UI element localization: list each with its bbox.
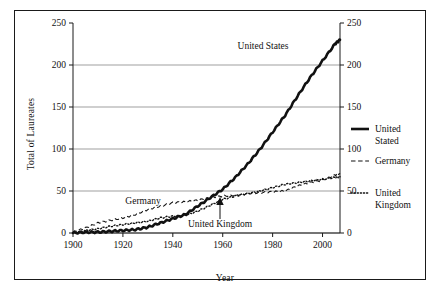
y-tick-label-left: 50 <box>57 186 67 196</box>
x-tick-label: 2000 <box>313 240 332 250</box>
y-tick-label-left: 250 <box>52 18 67 28</box>
legend-label-0: United <box>375 124 401 134</box>
gridlines <box>73 65 340 233</box>
x-tick-label: 1900 <box>64 240 83 250</box>
y-tick-label-left: 150 <box>52 102 67 112</box>
annotation-united-kingdom: United Kingdom <box>188 219 253 229</box>
chart-plot: 250200150100500 250200150100500 19001920… <box>15 11 425 279</box>
annotation-united-states: United States <box>238 41 289 51</box>
y-tick-label-left: 0 <box>61 228 66 238</box>
legend: UnitedStatedGermanyUnitedKingdom <box>351 124 412 209</box>
y-tick-label-left: 100 <box>52 144 67 154</box>
x-tick-label: 1980 <box>263 240 282 250</box>
x-tick-label: 1940 <box>163 240 182 250</box>
y-axis-left-ticks: 250200150100500 <box>52 18 73 238</box>
annotation-germany: Germany <box>125 196 161 206</box>
y-tick-label-right: 0 <box>347 228 352 238</box>
legend-label-0-line2: Stated <box>375 136 399 146</box>
y-tick-label-right: 150 <box>347 102 362 112</box>
y-tick-label-left: 200 <box>52 60 67 70</box>
legend-label-1: Germany <box>375 156 411 166</box>
series-line-united-states <box>73 40 340 234</box>
legend-label-2-line2: Kingdom <box>375 200 412 210</box>
x-tick-label: 1920 <box>113 240 132 250</box>
figure-container: Total of Laureates Year 250200150100500 … <box>0 0 440 294</box>
y-tick-label-right: 50 <box>347 186 357 196</box>
chart-frame: Total of Laureates Year 250200150100500 … <box>14 10 426 280</box>
x-tick-label: 1960 <box>213 240 232 250</box>
y-tick-label-right: 200 <box>347 60 362 70</box>
legend-label-2: United <box>375 188 401 198</box>
y-tick-label-right: 100 <box>347 144 362 154</box>
x-axis-ticks: 190019201940196019802000 <box>64 233 333 250</box>
y-tick-label-right: 250 <box>347 18 362 28</box>
